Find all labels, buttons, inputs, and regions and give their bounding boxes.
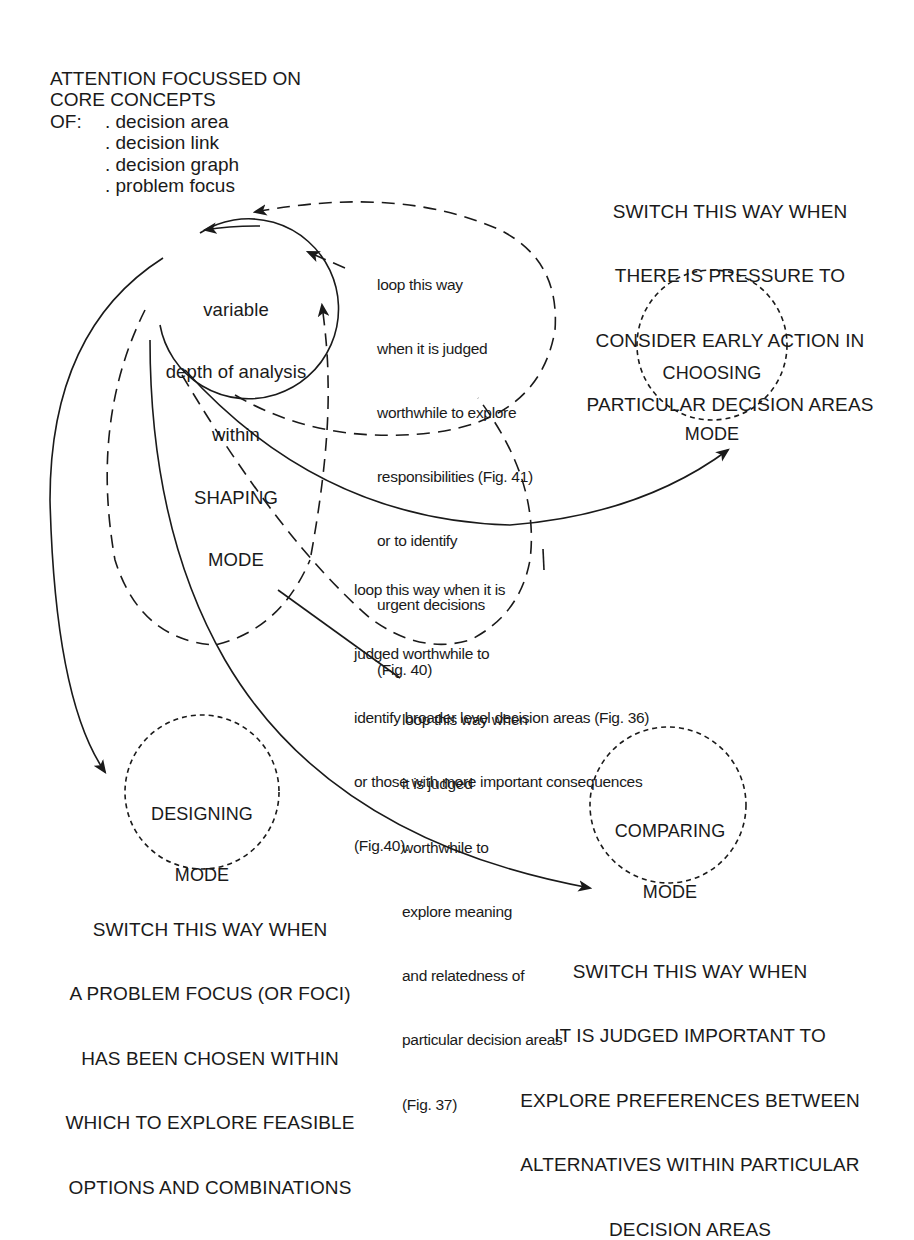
- designing-note-line-3: HAS BEEN CHOSEN WITHIN: [40, 1048, 380, 1069]
- of-label: OF:: [50, 111, 105, 197]
- resp-line-1: loop this way: [377, 274, 533, 295]
- meaning-line-2: it is judged: [402, 773, 563, 794]
- designing-line-1: DESIGNING: [122, 804, 282, 824]
- concept-problem-focus: . problem focus: [105, 175, 239, 196]
- shaping-line-1: variable: [146, 300, 326, 321]
- heading-line-1: ATTENTION FOCUSSED ON: [50, 68, 301, 89]
- shaping-mode-label: variable depth of analysis within SHAPIN…: [146, 258, 326, 592]
- choosing-note-line-3: CONSIDER EARLY ACTION IN: [560, 330, 900, 351]
- broader-line-1: loop this way when it is: [354, 579, 649, 600]
- heading-line-2: CORE CONCEPTS: [50, 89, 301, 110]
- comparing-note-line-4: ALTERNATIVES WITHIN PARTICULAR: [490, 1154, 890, 1175]
- designing-note-line-1: SWITCH THIS WAY WHEN: [40, 919, 380, 940]
- choosing-note-line-4: PARTICULAR DECISION AREAS: [560, 394, 900, 415]
- designing-note-line-2: A PROBLEM FOCUS (OR FOCI): [40, 983, 380, 1004]
- loop-meaning-note: loop this way when it is judged worthwhi…: [402, 666, 563, 1136]
- resp-line-2: when it is judged: [377, 338, 533, 359]
- meaning-line-5: and relatedness of: [402, 965, 563, 986]
- comparing-note-line-5: DECISION AREAS: [490, 1219, 890, 1240]
- designing-note-line-4: WHICH TO EXPLORE FEASIBLE: [40, 1112, 380, 1133]
- concept-decision-link: . decision link: [105, 132, 239, 153]
- concept-decision-area: . decision area: [105, 111, 239, 132]
- choosing-note-line-2: THERE IS PRESSURE TO: [560, 265, 900, 286]
- core-concepts-heading: ATTENTION FOCUSSED ON CORE CONCEPTS OF: …: [50, 68, 301, 197]
- shaping-line-5: MODE: [146, 550, 326, 571]
- comparing-line-2: MODE: [590, 882, 750, 902]
- shaping-line-2: depth of analysis: [146, 362, 326, 383]
- concept-decision-graph: . decision graph: [105, 154, 239, 175]
- shaping-line-3: within: [146, 425, 326, 446]
- choosing-note-line-1: SWITCH THIS WAY WHEN: [560, 201, 900, 222]
- meaning-line-4: explore meaning: [402, 901, 563, 922]
- designing-note-line-5: OPTIONS AND COMBINATIONS: [40, 1177, 380, 1198]
- shaping-line-4: SHAPING: [146, 488, 326, 509]
- meaning-line-7: (Fig. 37): [402, 1094, 563, 1115]
- meaning-line-1: loop this way when: [402, 709, 563, 730]
- meaning-line-6: particular decision areas: [402, 1029, 563, 1050]
- meaning-line-3: worthwhile to: [402, 837, 563, 858]
- broader-line-2: judged worthwhile to: [354, 643, 649, 664]
- choosing-switch-note: SWITCH THIS WAY WHEN THERE IS PRESSURE T…: [560, 158, 900, 437]
- resp-line-3: worthwhile to explore: [377, 402, 533, 423]
- designing-switch-note: SWITCH THIS WAY WHEN A PROBLEM FOCUS (OR…: [40, 876, 380, 1220]
- resp-line-4: responsibilities (Fig. 41): [377, 466, 533, 487]
